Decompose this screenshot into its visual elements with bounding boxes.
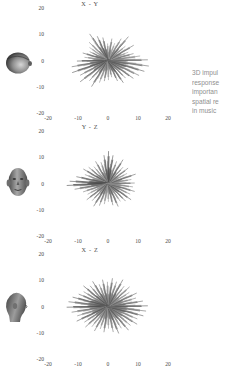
ytick-label: -10 <box>37 207 44 213</box>
xtick-label: -10 <box>74 115 81 121</box>
ytick-label: -10 <box>37 330 44 336</box>
xtick-label: 0 <box>107 361 110 367</box>
ytick-label: 20 <box>38 251 44 257</box>
xtick-label: -20 <box>44 115 51 121</box>
ytick-label: -20 <box>37 110 44 116</box>
ytick-label: -20 <box>37 356 44 362</box>
ytick-label: 10 <box>38 31 44 37</box>
xtick-label: 20 <box>165 115 171 121</box>
impulse-response-burst <box>48 8 168 113</box>
xtick-label: 20 <box>165 238 171 244</box>
plot-area-x-z: 20 10 0 -10 -20 -20 -10 0 10 20 <box>48 254 168 359</box>
xtick-label: 10 <box>135 115 141 121</box>
xtick-label: 0 <box>107 115 110 121</box>
panel-x-y: X - Y 20 10 0 -10 -20 -20 -10 0 10 20 <box>0 0 180 123</box>
panel-title-y-z: Y - Z <box>0 123 180 130</box>
head-top-view-icon <box>4 48 34 82</box>
ytick-label: 0 <box>41 58 44 64</box>
ytick-label: -10 <box>37 84 44 90</box>
xtick-label: -20 <box>44 238 51 244</box>
plot-area-y-z: 20 10 0 -10 -20 -20 -10 0 10 20 <box>48 131 168 236</box>
xtick-label: 0 <box>107 238 110 244</box>
xtick-label: 20 <box>165 361 171 367</box>
xtick-label: -10 <box>74 361 81 367</box>
caption-line: importan <box>192 87 228 97</box>
head-side-view-icon <box>4 286 32 328</box>
ytick-label: 20 <box>38 128 44 134</box>
xtick-label: 10 <box>135 238 141 244</box>
ytick-label: 0 <box>41 181 44 187</box>
caption-line: in music <box>192 106 228 116</box>
panel-x-z: X - Z 20 10 0 -10 -20 -20 -10 0 10 20 <box>0 246 180 369</box>
panel-title-x-z: X - Z <box>0 246 180 253</box>
panel-title-x-y: X - Y <box>0 0 180 7</box>
xtick-label: 10 <box>135 361 141 367</box>
ytick-label: 10 <box>38 154 44 160</box>
ytick-label: -20 <box>37 233 44 239</box>
xtick-label: -20 <box>44 361 51 367</box>
impulse-response-burst <box>48 131 168 236</box>
ytick-label: 0 <box>41 304 44 310</box>
panel-y-z: Y - Z 20 10 0 -10 -20 -20 -10 0 <box>0 123 180 246</box>
caption-line: response <box>192 78 228 88</box>
impulse-response-burst <box>48 254 168 359</box>
plot-area-x-y: 20 10 0 -10 -20 -20 -10 0 10 20 <box>48 8 168 113</box>
ytick-label: 20 <box>38 5 44 11</box>
caption-text: 3D impul response importan spatial re in… <box>192 68 228 116</box>
caption-line: spatial re <box>192 97 228 107</box>
xtick-label: -10 <box>74 238 81 244</box>
caption-line: 3D impul <box>192 68 228 78</box>
ytick-label: 10 <box>38 277 44 283</box>
head-front-view-icon <box>4 163 32 205</box>
